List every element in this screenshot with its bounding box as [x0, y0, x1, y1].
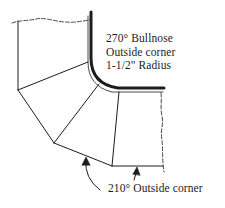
- bullnose-corner-label: 270° Bullnose Outside corner 1-1/2" Radi…: [106, 32, 175, 73]
- left-panel-bottom: [18, 62, 88, 90]
- top-break-line: [12, 19, 90, 23]
- bullnose-label-line2: Outside corner: [106, 46, 175, 60]
- arrow-facet-head: [82, 157, 90, 165]
- facet-divider-2: [112, 92, 119, 166]
- outside-corner-label: 210° Outside corner: [108, 182, 203, 196]
- right-break-line: [161, 93, 164, 172]
- bullnose-label-line1: 270° Bullnose: [106, 32, 175, 46]
- facet-left-edge: [18, 90, 54, 143]
- bullnose-label-line3: 1-1/2" Radius: [106, 59, 175, 73]
- arrow-panel-head: [133, 167, 140, 175]
- facet-divider-1: [54, 84, 99, 143]
